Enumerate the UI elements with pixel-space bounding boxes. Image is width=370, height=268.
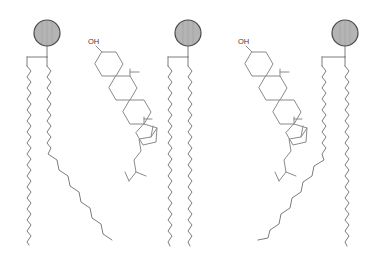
molecule-diagram: OH	[0, 0, 370, 268]
cholesterol-1-hydroxyl-label: OH	[88, 37, 99, 46]
cholesterol-2-hydroxyl-label: OH	[238, 37, 249, 46]
lipid-figure-canvas: OH	[0, 0, 370, 268]
